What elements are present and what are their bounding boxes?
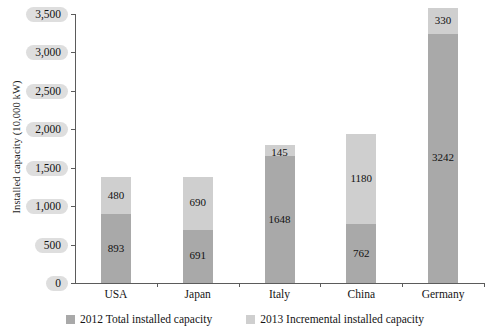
- x-axis-tick: [320, 283, 321, 287]
- x-axis-tick-label-usa: USA: [76, 288, 156, 300]
- y-axis-tick: [71, 52, 75, 53]
- y-axis-tick-label: 0: [10, 276, 68, 291]
- bar-value-label: 690: [183, 196, 213, 208]
- bar-value-label: 330: [428, 14, 458, 26]
- x-axis-tick-label-germany: Germany: [403, 288, 483, 300]
- x-axis-tick-label-japan: Japan: [158, 288, 238, 300]
- y-axis-tick: [71, 283, 75, 284]
- x-axis-tick-label-china: China: [321, 288, 401, 300]
- bar-segment-total-2012[interactable]: 762: [346, 224, 376, 283]
- y-axis-tick: [71, 91, 75, 92]
- x-axis-tick: [402, 283, 403, 287]
- bar-stack-japan[interactable]: 691690: [183, 177, 213, 283]
- y-axis-tick: [71, 14, 75, 15]
- bar-value-label: 893: [101, 242, 131, 254]
- y-axis-tick-label: 2,500: [10, 84, 68, 99]
- legend-label: 2012 Total installed capacity: [80, 313, 212, 325]
- legend-swatch-icon: [246, 315, 255, 324]
- bar-value-label: 1180: [346, 172, 376, 184]
- bar-segment-total-2012[interactable]: 893: [101, 214, 131, 283]
- bar-value-label: 3242: [428, 151, 458, 163]
- y-axis-tick: [71, 168, 75, 169]
- tick-label-highlight: 500: [35, 238, 68, 253]
- bar-stack-usa[interactable]: 893480: [101, 177, 131, 283]
- tick-label-highlight: 3,000: [26, 45, 68, 60]
- y-axis-tick-labels: 05001,0001,5002,0002,5003,0003,500: [8, 0, 68, 329]
- y-axis-tick: [71, 245, 75, 246]
- x-axis-tick: [239, 283, 240, 287]
- y-axis-line: [75, 14, 76, 283]
- tick-label-highlight: 2,500: [26, 84, 68, 99]
- y-axis-tick-label: 2,000: [10, 122, 68, 137]
- bar-value-label: 1648: [265, 213, 295, 225]
- tick-label-highlight: 2,000: [26, 122, 68, 137]
- bar-segment-incremental-2013[interactable]: 480: [101, 177, 131, 214]
- bar-segment-incremental-2013[interactable]: 690: [183, 177, 213, 230]
- bar-chart-figure: Installed capacity (10,000 kW) 05001,000…: [0, 0, 490, 329]
- bar-stack-italy[interactable]: 1648145: [265, 145, 295, 283]
- y-axis-tick-label: 500: [10, 238, 68, 253]
- x-axis-tick: [157, 283, 158, 287]
- bar-stack-germany[interactable]: 3242330: [428, 8, 458, 283]
- y-axis-tick: [71, 129, 75, 130]
- legend-item-total[interactable]: 2012 Total installed capacity: [66, 313, 212, 325]
- bar-segment-total-2012[interactable]: 691: [183, 230, 213, 283]
- legend-label: 2013 Incremental installed capacity: [260, 313, 424, 325]
- legend-swatch-icon: [66, 315, 75, 324]
- legend-item-incr[interactable]: 2013 Incremental installed capacity: [246, 313, 424, 325]
- tick-label-highlight: 1,500: [26, 161, 68, 176]
- bar-segment-total-2012[interactable]: 3242: [428, 34, 458, 283]
- tick-label-highlight: 3,500: [26, 7, 68, 22]
- bar-value-label: 480: [101, 189, 131, 201]
- x-axis-tick-label-italy: Italy: [240, 288, 320, 300]
- bar-segment-incremental-2013[interactable]: 145: [265, 145, 295, 156]
- bar-value-label: 691: [183, 249, 213, 261]
- bar-segment-incremental-2013[interactable]: 330: [428, 8, 458, 33]
- chart-legend: 2012 Total installed capacity2013 Increm…: [0, 311, 490, 327]
- bar-value-label: 762: [346, 247, 376, 259]
- tick-label-highlight: 1,000: [26, 199, 68, 214]
- x-axis-tick: [484, 283, 485, 287]
- x-axis-line: [75, 283, 484, 284]
- y-axis-tick: [71, 206, 75, 207]
- bar-stack-china[interactable]: 7621180: [346, 134, 376, 283]
- plot-area: 893480691690164814576211803242330: [75, 14, 484, 283]
- y-axis-tick-label: 1,000: [10, 199, 68, 214]
- bar-segment-total-2012[interactable]: 1648: [265, 156, 295, 283]
- y-axis-tick-label: 3,000: [10, 45, 68, 60]
- y-axis-tick-label: 1,500: [10, 161, 68, 176]
- tick-label-highlight: 0: [46, 276, 68, 291]
- y-axis-tick-label: 3,500: [10, 7, 68, 22]
- bar-segment-incremental-2013[interactable]: 1180: [346, 134, 376, 225]
